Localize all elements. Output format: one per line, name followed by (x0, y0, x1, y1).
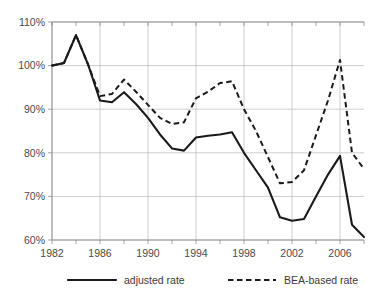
y-axis-tick-label: 70% (24, 190, 45, 202)
y-axis-tick-label: 110% (19, 16, 45, 28)
x-axis-tick-label: 1994 (184, 247, 208, 259)
x-axis-tick-labels: 1982198619901994199820022006 (40, 247, 352, 259)
legend-label: adjusted rate (124, 274, 185, 286)
y-axis-tick-labels: 110%100%90%80%70%60% (18, 16, 45, 246)
y-axis-tick-label: 80% (24, 147, 45, 159)
y-axis-tick-label: 90% (24, 103, 45, 115)
x-axis-tick-label: 2002 (280, 247, 304, 259)
x-axis-tick-label: 1998 (232, 247, 256, 259)
legend-label: BEA-based rate (284, 274, 358, 286)
x-axis-tick-label: 1986 (88, 247, 112, 259)
gridlines-vertical (52, 22, 340, 240)
axis-lines (52, 22, 364, 240)
y-axis-tick-label: 100% (18, 59, 45, 71)
x-axis-tick-label: 1990 (136, 247, 160, 259)
tick-marks (48, 22, 364, 244)
chart-legend: adjusted rateBEA-based rate (68, 274, 358, 286)
line-chart: 110%100%90%80%70%60% 1982198619901994199… (0, 0, 381, 296)
gridlines-horizontal (52, 22, 364, 240)
y-axis-tick-label: 60% (24, 234, 45, 246)
x-axis-tick-label: 2006 (328, 247, 352, 259)
x-axis-tick-label: 1982 (40, 247, 64, 259)
chart-figure: 110%100%90%80%70%60% 1982198619901994199… (0, 0, 381, 296)
